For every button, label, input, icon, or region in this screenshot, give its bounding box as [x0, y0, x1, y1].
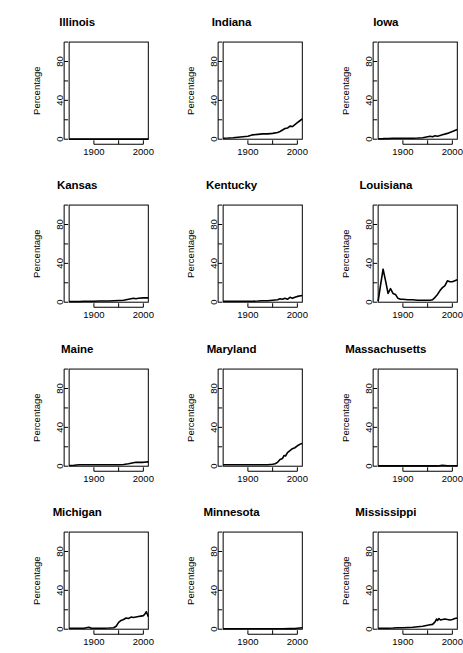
- x-tick-label: 2000: [133, 636, 154, 647]
- data-series-line: [223, 443, 302, 464]
- y-tick-label: 0: [54, 463, 65, 468]
- y-tick-label: 80: [208, 383, 219, 394]
- x-tick-label: 2000: [441, 636, 462, 647]
- chart-panel: Kansas04080Percentage19002000: [0, 163, 154, 326]
- data-series-line: [223, 628, 302, 629]
- x-tick-label: 2000: [287, 146, 308, 157]
- plot-area: 04080Percentage19002000: [0, 327, 154, 490]
- y-axis-title: Percentage: [31, 393, 42, 442]
- y-tick-label: 80: [208, 546, 219, 557]
- plot-area: 04080Percentage19002000: [154, 0, 308, 163]
- y-tick-label: 0: [362, 626, 373, 631]
- chart-panel: Massachusetts04080Percentage19002000: [309, 327, 463, 490]
- y-tick-label: 0: [54, 626, 65, 631]
- y-tick-label: 40: [208, 95, 219, 106]
- y-tick-label: 0: [362, 300, 373, 305]
- plot-area: 04080Percentage19002000: [0, 0, 154, 163]
- plot-area: 04080Percentage19002000: [154, 327, 308, 490]
- plot-frame: [223, 532, 302, 629]
- y-axis-title: Percentage: [31, 230, 42, 279]
- y-axis-title: Percentage: [185, 556, 196, 605]
- plot-area: 04080Percentage19002000: [0, 163, 154, 326]
- data-series-line: [69, 611, 148, 628]
- x-tick-label: 1900: [238, 146, 259, 157]
- y-tick-label: 80: [362, 219, 373, 230]
- x-tick-label: 1900: [83, 146, 104, 157]
- y-axis-title: Percentage: [339, 66, 350, 115]
- chart-panel: Louisiana04080Percentage19002000: [309, 163, 463, 326]
- y-axis-title: Percentage: [185, 66, 196, 115]
- x-tick-label: 2000: [441, 309, 462, 320]
- data-series-line: [378, 129, 457, 138]
- chart-panel: Michigan04080Percentage19002000: [0, 490, 154, 653]
- x-tick-label: 1900: [392, 309, 413, 320]
- y-tick-label: 80: [54, 383, 65, 394]
- plot-frame: [69, 369, 148, 466]
- y-tick-label: 40: [362, 585, 373, 596]
- x-tick-label: 2000: [287, 309, 308, 320]
- plot-area: 04080Percentage19002000: [309, 163, 463, 326]
- y-tick-label: 40: [208, 422, 219, 433]
- plot-frame: [223, 369, 302, 466]
- y-axis-title: Percentage: [31, 556, 42, 605]
- y-tick-label: 80: [362, 383, 373, 394]
- y-axis-title: Percentage: [185, 393, 196, 442]
- y-tick-label: 80: [362, 56, 373, 67]
- x-tick-label: 1900: [392, 636, 413, 647]
- y-tick-label: 80: [54, 219, 65, 230]
- plot-frame: [223, 205, 302, 302]
- data-series-line: [69, 298, 148, 302]
- chart-panel: Maryland04080Percentage19002000: [154, 327, 308, 490]
- y-tick-label: 80: [208, 219, 219, 230]
- y-tick-label: 0: [208, 137, 219, 142]
- y-tick-label: 40: [362, 95, 373, 106]
- x-tick-label: 1900: [238, 636, 259, 647]
- y-tick-label: 80: [54, 56, 65, 67]
- y-tick-label: 40: [54, 422, 65, 433]
- y-tick-label: 0: [54, 300, 65, 305]
- y-tick-label: 0: [362, 463, 373, 468]
- x-tick-label: 2000: [287, 636, 308, 647]
- plot-frame: [378, 42, 457, 139]
- x-tick-label: 1900: [83, 309, 104, 320]
- y-tick-label: 40: [208, 258, 219, 269]
- y-tick-label: 0: [208, 300, 219, 305]
- y-tick-label: 0: [362, 137, 373, 142]
- y-tick-label: 80: [208, 56, 219, 67]
- x-tick-label: 1900: [392, 146, 413, 157]
- small-multiples-figure: Illinois04080Percentage19002000Indiana04…: [0, 0, 463, 653]
- plot-area: 04080Percentage19002000: [309, 0, 463, 163]
- plot-area: 04080Percentage19002000: [154, 490, 308, 653]
- data-series-line: [69, 461, 148, 465]
- plot-area: 04080Percentage19002000: [309, 490, 463, 653]
- plot-frame: [69, 205, 148, 302]
- y-tick-label: 0: [208, 463, 219, 468]
- chart-panel: Maine04080Percentage19002000: [0, 327, 154, 490]
- x-tick-label: 1900: [83, 636, 104, 647]
- x-tick-label: 1900: [238, 473, 259, 484]
- x-tick-label: 1900: [238, 309, 259, 320]
- y-axis-title: Percentage: [339, 230, 350, 279]
- y-tick-label: 80: [54, 546, 65, 557]
- plot-frame: [378, 532, 457, 629]
- chart-panel: Minnesota04080Percentage19002000: [154, 490, 308, 653]
- chart-panel: Illinois04080Percentage19002000: [0, 0, 154, 163]
- y-tick-label: 0: [208, 626, 219, 631]
- plot-area: 04080Percentage19002000: [309, 327, 463, 490]
- y-axis-title: Percentage: [31, 66, 42, 115]
- plot-frame: [223, 42, 302, 139]
- plot-frame: [69, 42, 148, 139]
- data-series-line: [378, 618, 457, 628]
- y-tick-label: 40: [54, 585, 65, 596]
- plot-area: 04080Percentage19002000: [0, 490, 154, 653]
- x-tick-label: 2000: [441, 473, 462, 484]
- data-series-line: [223, 119, 302, 138]
- data-series-line: [223, 296, 302, 302]
- x-tick-label: 2000: [441, 146, 462, 157]
- y-axis-title: Percentage: [339, 393, 350, 442]
- chart-panel: Indiana04080Percentage19002000: [154, 0, 308, 163]
- x-tick-label: 1900: [83, 473, 104, 484]
- y-tick-label: 40: [362, 258, 373, 269]
- x-tick-label: 2000: [287, 473, 308, 484]
- plot-frame: [378, 369, 457, 466]
